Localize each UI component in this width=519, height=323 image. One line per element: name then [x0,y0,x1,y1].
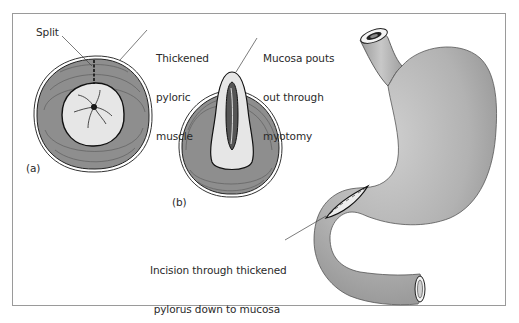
annotation-thickened-pyloric-muscle: Thickened pyloric muscle [156,26,209,156]
annotation-line: pyloric [156,91,209,104]
panel-c-stomach [314,26,497,305]
annotation-mucosa-pouts: Mucosa pouts out through myotomy [263,26,334,156]
annotation-line: myotomy [263,130,334,143]
panel-label-a: (a) [26,162,40,175]
annotation-line: Incision through thickened [150,264,280,277]
panel-a-cross-section [34,56,152,172]
annotation-line: muscle [156,130,209,143]
annotation-line: pylorus down to mucosa [150,303,280,316]
annotation-incision: Incision through thickened pylorus down … [150,238,280,323]
panel-label-b: (b) [172,196,187,209]
annotation-line: out through [263,91,334,104]
annotation-line: Mucosa pouts [263,52,334,65]
annotation-split: Split [36,26,59,39]
annotation-line: Thickened [156,52,209,65]
